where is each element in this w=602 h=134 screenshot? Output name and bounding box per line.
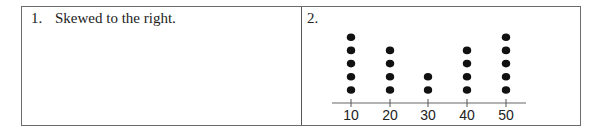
data-dot <box>502 60 510 68</box>
data-dot <box>347 33 355 41</box>
data-dot <box>502 86 510 94</box>
data-dot <box>424 73 432 81</box>
data-dot <box>502 47 510 55</box>
data-dot <box>386 47 394 55</box>
data-dot <box>347 73 355 81</box>
data-dot <box>347 60 355 68</box>
data-dot <box>386 86 394 94</box>
dot-plot: 1020304050 <box>0 0 602 134</box>
data-dot <box>347 47 355 55</box>
data-dot <box>424 86 432 94</box>
data-dot <box>386 73 394 81</box>
tick-label: 10 <box>343 107 359 123</box>
data-dot <box>463 47 471 55</box>
tick-label: 40 <box>459 107 475 123</box>
data-dot <box>347 86 355 94</box>
tick-label: 50 <box>498 107 514 123</box>
tick-label: 20 <box>382 107 398 123</box>
data-dot <box>463 86 471 94</box>
data-dot <box>463 60 471 68</box>
data-dot <box>502 73 510 81</box>
data-dot <box>502 33 510 41</box>
tick-label: 30 <box>420 107 436 123</box>
data-dot <box>463 73 471 81</box>
data-dot <box>386 60 394 68</box>
